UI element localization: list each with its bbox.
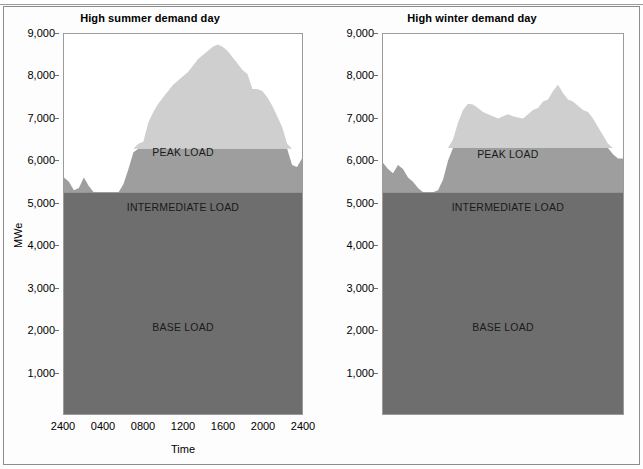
chart-panel-winter: High winter demand day 1,0002,0003,0004,…: [320, 0, 643, 469]
band-label-intermediate-summer: INTERMEDIATE LOAD: [127, 201, 239, 213]
band-label-base-summer: BASE LOAD: [152, 321, 213, 333]
x-axis-tick-label: 1600: [211, 420, 235, 432]
y-axis-tick-mark: [55, 160, 59, 161]
x-axis-title-summer: Time: [63, 443, 303, 455]
y-axis-tick-label: 2,000: [346, 325, 374, 336]
y-axis-tick-label: 1,000: [346, 367, 374, 378]
y-axis-tick-label: 6,000: [27, 155, 55, 166]
y-axis-tick-mark: [374, 373, 378, 374]
band-label-peak-summer: PEAK LOAD: [152, 146, 213, 158]
base-load-area: [64, 192, 302, 414]
y-axis-tick-label: 1,000: [27, 367, 55, 378]
y-axis-tick-mark: [374, 33, 378, 34]
y-axis-tick-mark: [374, 203, 378, 204]
y-axis-tick-label: 7,000: [27, 112, 55, 123]
y-axis-title-summer: MWe: [12, 223, 24, 248]
figure-canvas: High summer demand day 1,0002,0003,0004,…: [0, 0, 643, 469]
y-axis-tick-label: 7,000: [346, 112, 374, 123]
y-axis-tick-label: 3,000: [27, 282, 55, 293]
x-axis-tick-label: 2400: [51, 420, 75, 432]
y-axis-tick-label: 6,000: [346, 155, 374, 166]
y-axis-tick-label: 4,000: [346, 240, 374, 251]
x-axis-tick-label: 0800: [131, 420, 155, 432]
x-axis-tick-label: 2000: [251, 420, 275, 432]
plot-area-summer: PEAK LOAD INTERMEDIATE LOAD BASE LOAD: [63, 33, 303, 415]
plot-area-winter: PEAK LOAD INTERMEDIATE LOAD BASE LOAD: [382, 33, 624, 415]
area-chart-winter: [383, 34, 623, 414]
x-axis-labels-summer: 2400040008001200160020002400: [63, 420, 303, 434]
band-label-intermediate-winter: INTERMEDIATE LOAD: [452, 201, 564, 213]
y-axis-tick-mark: [55, 33, 59, 34]
x-axis-tick-label: 0400: [91, 420, 115, 432]
y-axis-tick-label: 4,000: [27, 240, 55, 251]
band-label-base-winter: BASE LOAD: [472, 321, 533, 333]
chart-panel-summer: High summer demand day 1,0002,0003,0004,…: [0, 0, 330, 469]
y-axis-tick-mark: [374, 288, 378, 289]
y-axis-tick-mark: [374, 75, 378, 76]
peak-load-area: [64, 45, 302, 149]
x-axis-tick-label: 1200: [171, 420, 195, 432]
y-axis-labels-winter: 1,0002,0003,0004,0005,0006,0007,0008,000…: [322, 33, 378, 415]
x-axis-tick-label: 2400: [291, 420, 315, 432]
y-axis-tick-label: 3,000: [346, 282, 374, 293]
y-axis-tick-mark: [55, 75, 59, 76]
base-load-area: [383, 192, 623, 414]
area-chart-summer: [64, 34, 302, 414]
y-axis-tick-mark: [374, 160, 378, 161]
y-axis-tick-label: 2,000: [27, 325, 55, 336]
y-axis-tick-mark: [374, 330, 378, 331]
y-axis-tick-mark: [374, 245, 378, 246]
y-axis-tick-label: 5,000: [346, 197, 374, 208]
y-axis-tick-label: 8,000: [346, 70, 374, 81]
y-axis-tick-label: 9,000: [27, 28, 55, 39]
y-axis-tick-mark: [55, 288, 59, 289]
y-axis-tick-mark: [374, 118, 378, 119]
chart-title-winter: High winter demand day: [320, 12, 624, 24]
y-axis-tick-label: 9,000: [346, 28, 374, 39]
y-axis-tick-label: 5,000: [27, 197, 55, 208]
peak-load-area: [383, 85, 623, 148]
chart-title-summer: High summer demand day: [0, 12, 300, 24]
y-axis-tick-mark: [55, 373, 59, 374]
y-axis-tick-mark: [55, 330, 59, 331]
y-axis-tick-label: 8,000: [27, 70, 55, 81]
band-label-peak-winter: PEAK LOAD: [477, 148, 538, 160]
y-axis-tick-mark: [55, 118, 59, 119]
y-axis-tick-mark: [55, 245, 59, 246]
y-axis-tick-mark: [55, 203, 59, 204]
